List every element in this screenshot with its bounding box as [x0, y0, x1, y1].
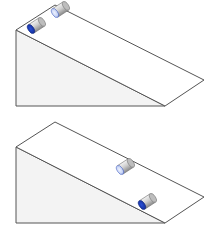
- panel-top: [0, 0, 217, 117]
- wedge-diagram-top: [0, 0, 217, 117]
- panel-bottom: [0, 117, 217, 234]
- wedge-diagram-bottom: [0, 117, 217, 234]
